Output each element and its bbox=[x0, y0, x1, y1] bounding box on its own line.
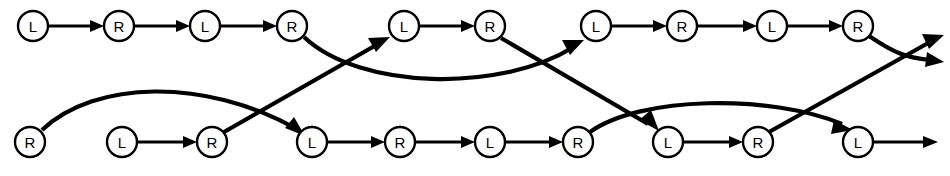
node-label: R bbox=[395, 134, 406, 151]
edge-b8-outgoing-cross bbox=[769, 34, 944, 132]
flow-diagram-svg: L R L R L R L bbox=[0, 0, 950, 176]
node-label: R bbox=[25, 134, 36, 151]
node-b5[interactable]: L bbox=[475, 127, 505, 157]
node-label: L bbox=[400, 18, 408, 35]
arrowhead-icon bbox=[653, 20, 667, 32]
node-b2[interactable]: R bbox=[197, 127, 227, 157]
edge-t8-t9 bbox=[787, 20, 843, 32]
arrowhead-icon bbox=[176, 20, 190, 32]
node-b3[interactable]: L bbox=[297, 127, 327, 157]
node-label: R bbox=[853, 18, 864, 35]
node-label: L bbox=[201, 18, 209, 35]
node-b1[interactable]: L bbox=[107, 127, 137, 157]
node-b9[interactable]: L bbox=[843, 127, 873, 157]
edge-b0-to-b3-arc bbox=[42, 91, 305, 136]
node-t2[interactable]: L bbox=[190, 11, 220, 41]
node-label: R bbox=[287, 18, 298, 35]
arrowhead-icon bbox=[923, 136, 938, 148]
edge-b5-b6 bbox=[505, 136, 563, 148]
edge-t0-t1 bbox=[48, 20, 104, 32]
edge-t2-t3 bbox=[220, 20, 277, 32]
node-label: L bbox=[486, 134, 494, 151]
edge-b2-to-t4-cross bbox=[224, 37, 390, 132]
node-t7[interactable]: R bbox=[667, 11, 697, 41]
arrowhead-icon bbox=[461, 20, 475, 32]
arrowhead-icon bbox=[829, 20, 843, 32]
node-label: R bbox=[207, 134, 218, 151]
arrowhead-icon bbox=[729, 136, 743, 148]
edge-b4-b5 bbox=[415, 136, 475, 148]
node-t0[interactable]: L bbox=[18, 11, 48, 41]
node-label: L bbox=[592, 18, 600, 35]
node-t6[interactable]: L bbox=[581, 11, 611, 41]
node-label: R bbox=[114, 18, 125, 35]
node-t4[interactable]: L bbox=[389, 11, 419, 41]
edge-t5-to-b7-cross bbox=[501, 38, 659, 131]
node-label: L bbox=[29, 18, 37, 35]
node-b8[interactable]: R bbox=[743, 127, 773, 157]
edge-b3-b4 bbox=[327, 136, 385, 148]
node-t9[interactable]: R bbox=[843, 11, 873, 41]
arrowhead-icon bbox=[183, 136, 197, 148]
node-b4[interactable]: R bbox=[385, 127, 415, 157]
arrowhead-icon bbox=[743, 20, 757, 32]
arrowhead-icon bbox=[461, 136, 475, 148]
arrowhead-icon bbox=[639, 110, 659, 131]
edge-t4-t5 bbox=[419, 20, 475, 32]
node-t1[interactable]: R bbox=[104, 11, 134, 41]
node-label: L bbox=[854, 134, 862, 151]
node-t3[interactable]: R bbox=[277, 11, 307, 41]
node-label: L bbox=[664, 134, 672, 151]
node-layer: L R L R L R L bbox=[15, 11, 873, 157]
arrowhead-icon bbox=[371, 136, 385, 148]
edge-b1-b2 bbox=[137, 136, 197, 148]
edge-t6-t7 bbox=[611, 20, 667, 32]
node-label: R bbox=[573, 134, 584, 151]
edge-t7-t8 bbox=[697, 20, 757, 32]
diagram-canvas: L R L R L R L bbox=[0, 0, 950, 176]
edge-t1-t2 bbox=[134, 20, 190, 32]
node-label: R bbox=[677, 18, 688, 35]
arrowhead-icon bbox=[263, 20, 277, 32]
edge-b9-outgoing bbox=[873, 136, 938, 148]
node-label: L bbox=[118, 134, 126, 151]
node-t8[interactable]: L bbox=[757, 11, 787, 41]
node-label: R bbox=[485, 18, 496, 35]
arrowhead-icon bbox=[925, 52, 944, 67]
node-b6[interactable]: R bbox=[563, 127, 593, 157]
edge-t3-to-t6-arc bbox=[304, 37, 584, 79]
node-label: L bbox=[308, 134, 316, 151]
node-b0[interactable]: R bbox=[15, 127, 45, 157]
arrowhead-icon bbox=[90, 20, 104, 32]
node-b7[interactable]: L bbox=[653, 127, 683, 157]
node-label: L bbox=[768, 18, 776, 35]
node-t5[interactable]: R bbox=[475, 11, 505, 41]
edge-b7-b8 bbox=[683, 136, 743, 148]
node-label: R bbox=[753, 134, 764, 151]
arrowhead-icon bbox=[549, 136, 563, 148]
